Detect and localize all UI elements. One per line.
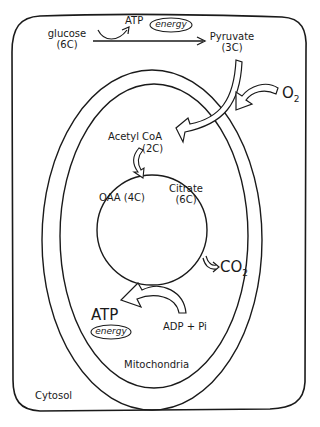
glucose-carbons: (6C) [47, 39, 87, 50]
co2-symbol: CO [220, 258, 242, 276]
co2-label: CO2 [220, 259, 248, 277]
energy-tag-top: energy [153, 19, 189, 30]
glucose-name: glucose [47, 28, 87, 39]
acetyl-coa-name: Acetyl CoA [108, 131, 162, 142]
oaa-label: OAA (4C) [99, 192, 145, 203]
oxygen-arrow [236, 84, 278, 110]
pyruvate-carbons: (3C) [207, 42, 257, 53]
acetyl-coa-carbons: (2C) [142, 143, 163, 154]
glucose-label: glucose (6C) [47, 28, 87, 50]
pyruvate-name: Pyruvate [207, 31, 257, 42]
atp-label-top: ATP [125, 15, 143, 26]
oxygen-label: O2 [282, 85, 300, 103]
oxygen-subscript: 2 [294, 94, 300, 104]
cytosol-label: Cytosol [35, 390, 72, 401]
citrate-label: Citrate (6C) [168, 183, 204, 205]
glycolysis-arrow [93, 37, 205, 45]
oxygen-symbol: O [282, 84, 294, 102]
mitochondria-label: Mitochondria [124, 359, 189, 370]
energy-tag-bottom: energy [93, 326, 129, 337]
atp-release-arrow [98, 27, 129, 39]
atp-label-bottom: ATP [91, 307, 118, 323]
adp-to-atp-arrow [121, 283, 186, 313]
co2-subscript: 2 [242, 268, 248, 278]
adp-pi-label: ADP + Pi [163, 321, 207, 332]
pyruvate-to-acetylcoa-arrow [176, 60, 242, 142]
pyruvate-label: Pyruvate (3C) [207, 31, 257, 53]
citrate-carbons: (6C) [168, 194, 204, 205]
citrate-name: Citrate [168, 183, 204, 194]
co2-release-arrow [203, 256, 219, 272]
